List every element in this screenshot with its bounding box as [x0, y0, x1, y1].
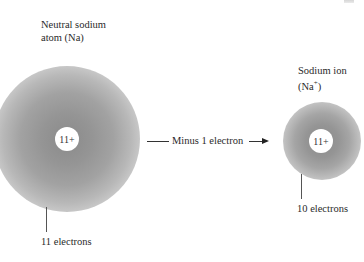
neutral-atom-nucleus: 11+	[55, 127, 79, 151]
ion-title-line2: (Na+)	[298, 77, 347, 93]
transition-line-right	[249, 141, 263, 142]
ion-formula-end: )	[318, 81, 322, 92]
ion-electron-count: 10 electrons	[297, 202, 348, 215]
neutral-atom-title-line1: Neutral sodium	[41, 18, 106, 31]
neutral-atom-title-line2: atom (Na)	[41, 31, 106, 44]
neutral-atom-electron-count: 11 electrons	[41, 235, 92, 248]
neutral-atom-nucleus-charge: 11+	[59, 134, 74, 145]
arrow-right-icon	[262, 138, 269, 144]
ion-formula-base: (Na	[298, 81, 314, 92]
diagram: Neutral sodium atom (Na) 11+ 11 electron…	[0, 0, 364, 262]
ion-title-line1: Sodium ion	[298, 64, 347, 77]
transition-label: Minus 1 electron	[172, 134, 243, 147]
ion-pointer-line	[301, 174, 302, 199]
page-edge-fragment	[344, 0, 354, 3]
neutral-atom-pointer-line	[46, 207, 47, 232]
transition-line-left	[147, 141, 169, 142]
ion-nucleus-charge: 11+	[313, 136, 328, 147]
ion-title: Sodium ion (Na+)	[298, 64, 347, 93]
neutral-atom-title: Neutral sodium atom (Na)	[41, 18, 106, 44]
ion-nucleus: 11+	[309, 129, 333, 153]
